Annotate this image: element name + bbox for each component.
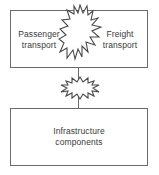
infrastructure-components-label: Infrastructure components <box>10 126 148 147</box>
diagram-canvas: Passenger transport Freight transport In… <box>0 0 159 175</box>
starburst-conflict-icon-horizontal <box>60 76 100 100</box>
starburst-vertical-shape <box>58 4 102 72</box>
starburst-conflict-icon-vertical <box>58 4 102 72</box>
starburst-horizontal-shape <box>60 76 100 100</box>
